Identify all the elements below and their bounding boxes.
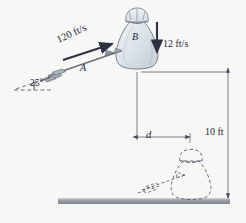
vertical-height-label: 10 ft: [205, 127, 224, 137]
horizontal-distance-label: d: [146, 130, 151, 141]
body-label-a: A: [80, 63, 86, 73]
diagram-canvas: [0, 0, 246, 223]
angle-label: 25°: [30, 79, 43, 89]
physics-figure: 120 ft/s A 25° B 12 ft/s d 10 ft: [0, 0, 246, 223]
velocity-vector-icon: [63, 44, 112, 60]
ground-line-icon: [58, 198, 230, 204]
speed-label-b: 12 ft/s: [163, 39, 188, 49]
body-label-b: B: [132, 32, 138, 42]
dashed-arrow-icon: [138, 173, 185, 194]
